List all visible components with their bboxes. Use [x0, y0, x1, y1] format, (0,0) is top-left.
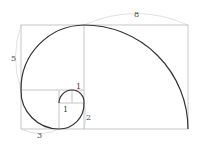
fibonacci-diagram: 8 5 3 2 1 1 [0, 0, 203, 148]
label-8: 8 [134, 10, 139, 19]
fibonacci-spiral [21, 25, 188, 129]
label-1b: 1 [63, 105, 68, 114]
label-5: 5 [11, 54, 16, 63]
dimension-arc-5 [16, 25, 22, 90]
outer-rectangle [21, 25, 188, 129]
label-2: 2 [86, 113, 91, 122]
dimension-arcs [16, 14, 189, 134]
label-1a: 1 [76, 82, 81, 91]
label-3: 3 [37, 131, 42, 140]
grid-squares [21, 25, 188, 129]
